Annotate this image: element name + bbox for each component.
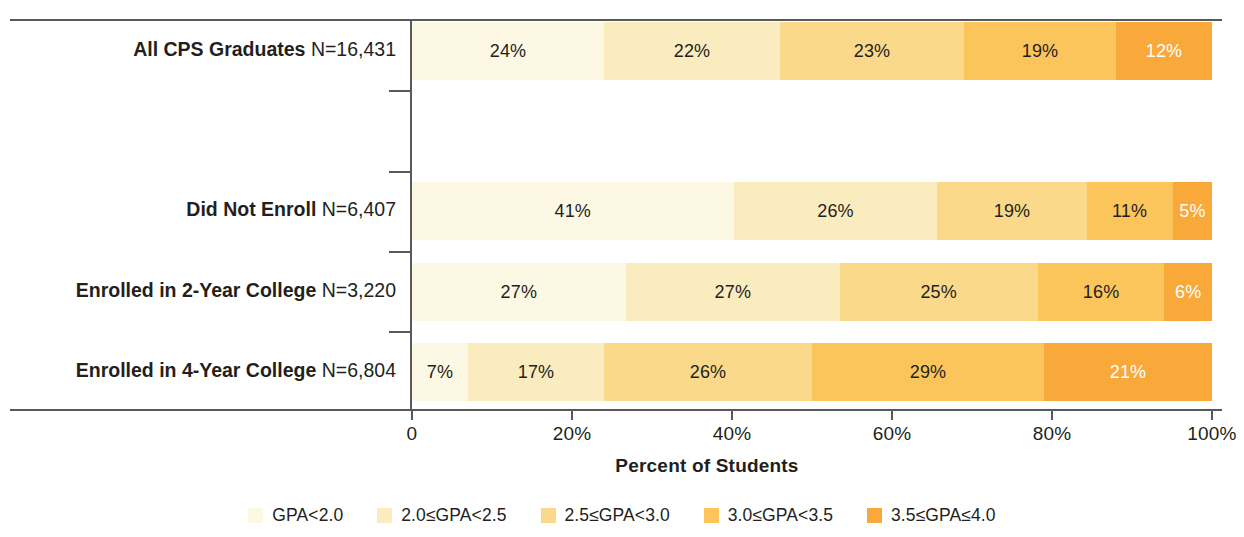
legend-item[interactable]: 3.5≤GPA≤4.0 bbox=[867, 505, 996, 526]
bar-segment: 19% bbox=[964, 22, 1116, 80]
legend-swatch bbox=[704, 508, 719, 523]
x-axis-line bbox=[10, 409, 1222, 411]
bar-segment: 22% bbox=[604, 22, 780, 80]
legend-item[interactable]: 2.0≤GPA<2.5 bbox=[377, 505, 506, 526]
x-axis-tick-label: 0 bbox=[407, 423, 418, 445]
category-name: Enrolled in 2-Year College bbox=[76, 279, 317, 301]
y-axis-tick bbox=[389, 331, 411, 333]
bar-segment: 7% bbox=[412, 343, 468, 401]
bar-segment: 19% bbox=[937, 182, 1086, 240]
legend-item[interactable]: 3.0≤GPA<3.5 bbox=[704, 505, 833, 526]
legend-label: 3.5≤GPA≤4.0 bbox=[891, 505, 996, 526]
x-axis-tick-label: 20% bbox=[553, 423, 592, 445]
bar-segment-label: 6% bbox=[1175, 282, 1201, 303]
legend-label: 3.0≤GPA<3.5 bbox=[728, 505, 833, 526]
y-axis-category-label: Enrolled in 4-Year College N=6,804 bbox=[0, 361, 396, 381]
bar-segment-label: 19% bbox=[994, 201, 1031, 222]
bar-segment: 23% bbox=[780, 22, 964, 80]
bar-segment-label: 24% bbox=[490, 41, 527, 62]
bar-segment-label: 41% bbox=[554, 201, 591, 222]
y-axis-category-label: All CPS Graduates N=16,431 bbox=[0, 40, 396, 60]
bar-segment: 29% bbox=[812, 343, 1044, 401]
y-axis-category-label: Enrolled in 2-Year College N=3,220 bbox=[0, 281, 396, 301]
bar-segment: 25% bbox=[840, 263, 1038, 321]
bar-segment: 27% bbox=[626, 263, 840, 321]
bar-segment-label: 7% bbox=[427, 362, 453, 383]
category-sample-size: N=6,804 bbox=[316, 359, 396, 381]
bar-segment-label: 5% bbox=[1179, 201, 1205, 222]
bar-segment: 26% bbox=[604, 343, 812, 401]
bar-segment-label: 22% bbox=[674, 41, 711, 62]
x-axis-tick-label: 40% bbox=[713, 423, 752, 445]
legend-label: 2.0≤GPA<2.5 bbox=[401, 505, 506, 526]
bar-segment-label: 16% bbox=[1083, 282, 1120, 303]
bar-segment: 27% bbox=[412, 263, 626, 321]
x-axis-title: Percent of Students bbox=[0, 455, 1244, 477]
bar-segment-label: 19% bbox=[1022, 41, 1059, 62]
bar-segment-label: 12% bbox=[1146, 41, 1183, 62]
bar-segment: 6% bbox=[1164, 263, 1212, 321]
bar-segment-label: 17% bbox=[518, 362, 555, 383]
x-axis-tick bbox=[1211, 411, 1213, 420]
x-axis-tick bbox=[411, 411, 413, 420]
legend-swatch bbox=[541, 508, 556, 523]
top-rule bbox=[10, 19, 1222, 21]
legend-label: 2.5≤GPA<3.0 bbox=[565, 505, 670, 526]
bar-segment-label: 23% bbox=[854, 41, 891, 62]
category-sample-size: N=3,220 bbox=[316, 279, 396, 301]
x-axis-tick bbox=[1051, 411, 1053, 420]
bar-segment-label: 27% bbox=[501, 282, 538, 303]
y-axis-tick bbox=[389, 171, 411, 173]
legend-swatch bbox=[248, 508, 263, 523]
legend-label: GPA<2.0 bbox=[272, 505, 343, 526]
bar-segment: 41% bbox=[412, 182, 734, 240]
bar-segment-label: 21% bbox=[1110, 362, 1147, 383]
bar-segment-label: 26% bbox=[817, 201, 854, 222]
x-axis-tick bbox=[571, 411, 573, 420]
bar-segment: 17% bbox=[468, 343, 604, 401]
category-sample-size: N=6,407 bbox=[316, 198, 396, 220]
category-sample-size: N=16,431 bbox=[305, 38, 396, 60]
bar-segment: 5% bbox=[1173, 182, 1212, 240]
y-axis-category-label: Did Not Enroll N=6,407 bbox=[0, 200, 396, 220]
bar-segment: 26% bbox=[734, 182, 938, 240]
stacked-bar: 41%26%19%11%5% bbox=[412, 182, 1212, 240]
y-axis-tick bbox=[389, 251, 411, 253]
bar-segment-label: 26% bbox=[690, 362, 727, 383]
legend-swatch bbox=[377, 508, 392, 523]
bar-segment-label: 25% bbox=[920, 282, 957, 303]
legend-swatch bbox=[867, 508, 882, 523]
bar-segment: 16% bbox=[1038, 263, 1165, 321]
category-name: Enrolled in 4-Year College bbox=[76, 359, 317, 381]
bar-segment-label: 11% bbox=[1112, 201, 1147, 222]
x-axis-tick bbox=[891, 411, 893, 420]
bar-segment: 21% bbox=[1044, 343, 1212, 401]
x-axis-title-text: Percent of Students bbox=[445, 455, 798, 477]
x-axis-tick-label: 80% bbox=[1033, 423, 1072, 445]
bar-segment-label: 27% bbox=[714, 282, 751, 303]
y-axis-tick bbox=[389, 90, 411, 92]
x-axis-tick bbox=[731, 411, 733, 420]
x-axis-tick-label: 60% bbox=[873, 423, 912, 445]
bar-segment: 11% bbox=[1087, 182, 1173, 240]
bar-segment-label: 29% bbox=[910, 362, 947, 383]
legend-item[interactable]: GPA<2.0 bbox=[248, 505, 343, 526]
bar-segment: 24% bbox=[412, 22, 604, 80]
legend: GPA<2.02.0≤GPA<2.52.5≤GPA<3.03.0≤GPA<3.5… bbox=[0, 505, 1244, 526]
stacked-bar: 27%27%25%16%6% bbox=[412, 263, 1212, 321]
stacked-bar-chart: All CPS Graduates N=16,431Did Not Enroll… bbox=[0, 0, 1244, 537]
x-axis-tick-label: 100% bbox=[1187, 423, 1236, 445]
category-name: Did Not Enroll bbox=[186, 198, 316, 220]
legend-item[interactable]: 2.5≤GPA<3.0 bbox=[541, 505, 670, 526]
stacked-bar: 24%22%23%19%12% bbox=[412, 22, 1212, 80]
bar-segment: 12% bbox=[1116, 22, 1212, 80]
category-name: All CPS Graduates bbox=[133, 38, 305, 60]
stacked-bar: 7%17%26%29%21% bbox=[412, 343, 1212, 401]
